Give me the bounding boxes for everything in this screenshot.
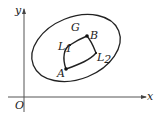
diagram-canvas: y x O G A B L1 L2	[0, 0, 156, 121]
region-label: G	[71, 21, 80, 34]
region-boundary	[22, 2, 131, 94]
x-axis-label: x	[147, 90, 154, 103]
point-B	[85, 34, 89, 38]
origin-label: O	[15, 99, 24, 112]
point-B-label: B	[89, 29, 98, 42]
path-L1-label: L1	[57, 40, 72, 55]
point-A-label: A	[56, 67, 65, 80]
path-L2-label: L2	[96, 51, 111, 66]
y-axis-label: y	[14, 4, 22, 17]
